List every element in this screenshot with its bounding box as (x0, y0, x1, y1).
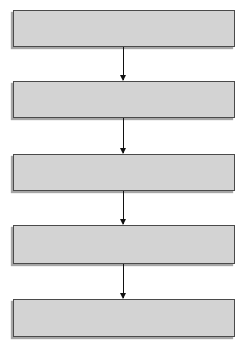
flow-step-3 (13, 154, 235, 191)
arrow-down-icon (123, 264, 124, 298)
flow-step-2 (13, 81, 235, 118)
flow-step-5 (13, 299, 235, 337)
arrow-down-icon (123, 118, 124, 153)
flow-step-1 (13, 10, 235, 47)
flow-step-4 (13, 225, 235, 264)
arrow-down-icon (123, 191, 124, 224)
arrow-down-icon (123, 47, 124, 80)
